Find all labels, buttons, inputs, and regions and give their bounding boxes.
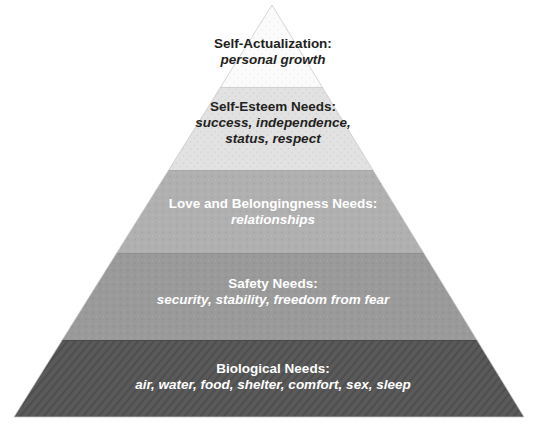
tier-band-self-actualization: [0, 0, 546, 87]
tier-band-self-esteem: [0, 87, 546, 170]
tier-band-safety: [0, 253, 546, 340]
tier-band-biological: [0, 340, 546, 418]
pyramid-shape: [0, 0, 546, 434]
maslow-pyramid-diagram: Self-Actualization: personal growth Self…: [0, 0, 546, 434]
tier-band-love-belongingness: [0, 170, 546, 253]
